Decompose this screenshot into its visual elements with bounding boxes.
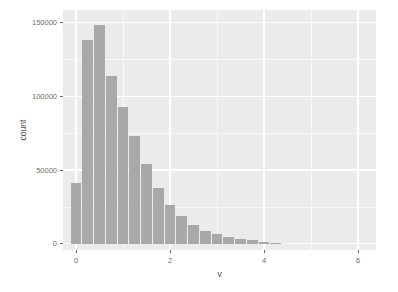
y-tick-label: 0 [0, 239, 57, 248]
y-axis-tick [60, 22, 63, 23]
histogram-bar [176, 216, 187, 243]
gridline-major-vertical [357, 10, 358, 250]
x-tick-label: 4 [254, 256, 274, 265]
y-tick-label: 100000 [0, 92, 57, 101]
histogram-bar [212, 234, 223, 243]
x-axis-tick [170, 250, 171, 253]
histogram-figure: 0246050000100000150000 count v [0, 0, 398, 292]
histogram-bar [141, 164, 152, 244]
histogram-bar [106, 76, 117, 243]
histogram-bar [129, 136, 140, 244]
y-axis-title: count [18, 115, 28, 145]
y-axis-tick [60, 170, 63, 171]
x-axis-tick [264, 250, 265, 253]
x-axis-tick [358, 250, 359, 253]
gridline-minor-horizontal [63, 59, 376, 60]
y-axis-tick [60, 243, 63, 244]
histogram-bar [71, 183, 82, 243]
x-axis-title: v [210, 269, 230, 279]
histogram-bar [82, 40, 93, 244]
gridline-major-horizontal [63, 22, 376, 23]
histogram-bar [188, 225, 199, 243]
y-tick-label: 150000 [0, 18, 57, 27]
y-axis-tick [60, 96, 63, 97]
histogram-bar [223, 237, 234, 244]
histogram-bar [247, 240, 258, 244]
gridline-major-vertical [263, 10, 264, 250]
plot-panel [63, 10, 376, 250]
gridline-minor-vertical [217, 10, 218, 250]
histogram-bar [94, 25, 105, 244]
histogram-bar [153, 188, 164, 244]
histogram-bar [118, 107, 129, 243]
histogram-bar [200, 231, 211, 244]
x-axis-tick [76, 250, 77, 253]
x-tick-label: 2 [160, 256, 180, 265]
histogram-bar [259, 242, 270, 244]
gridline-minor-vertical [311, 10, 312, 250]
x-tick-label: 6 [348, 256, 368, 265]
x-tick-label: 0 [66, 256, 86, 265]
histogram-bar [235, 239, 246, 244]
y-tick-label: 50000 [0, 166, 57, 175]
histogram-bar [270, 243, 281, 244]
histogram-bar [165, 205, 176, 244]
